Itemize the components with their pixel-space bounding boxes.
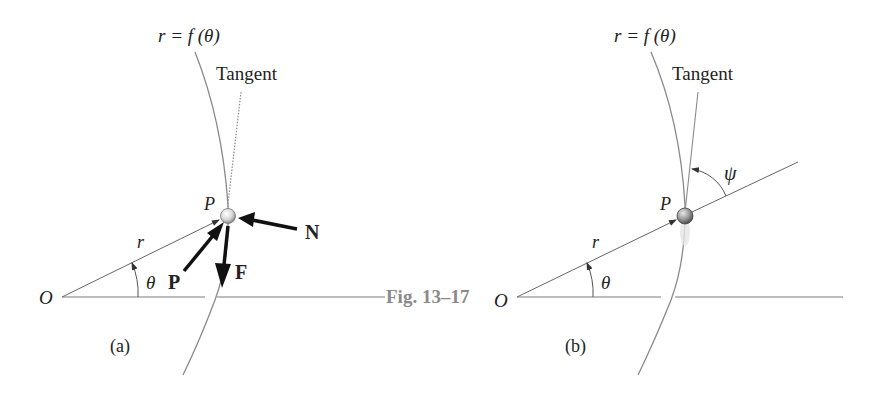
theta-arc-a (132, 263, 138, 297)
diagram-canvas (0, 0, 883, 397)
theta-arc-b (587, 263, 593, 297)
tangent-line-b (685, 92, 698, 212)
point-label-b: P (660, 195, 671, 213)
force-n-label: N (305, 222, 319, 242)
point-label-a: P (204, 195, 215, 213)
curve-label-a: r = f (θ) (158, 26, 220, 45)
tangent-label-a: Tangent (216, 64, 277, 83)
tangent-line-a (227, 92, 241, 212)
psi-label-b: ψ (724, 163, 736, 183)
tangent-label-b: Tangent (672, 64, 733, 83)
particle-a (221, 209, 236, 224)
force-f-head (215, 263, 231, 288)
radius-label-a: r (137, 233, 144, 251)
force-p-label: P (168, 272, 180, 292)
origin-label-a: O (39, 288, 53, 307)
sublabel-a: (a) (110, 337, 130, 355)
radial-extension-b (692, 162, 798, 212)
radius-label-b: r (592, 233, 599, 251)
force-n-head (238, 212, 255, 227)
origin-label-b: O (494, 291, 508, 310)
figure-caption: Fig. 13–17 (386, 287, 469, 306)
sublabel-b: (b) (565, 337, 586, 355)
psi-arc-b (692, 169, 726, 196)
force-p-arrow (184, 232, 216, 271)
particle-b (677, 208, 693, 224)
panel-a (62, 52, 385, 375)
theta-label-b: θ (601, 273, 610, 292)
curve-label-b: r = f (θ) (614, 26, 676, 45)
panel-b (517, 52, 843, 375)
force-f-label: F (235, 262, 247, 282)
theta-label-a: θ (146, 273, 155, 292)
force-f-arrow (224, 226, 228, 265)
force-n-arrow (252, 220, 297, 229)
